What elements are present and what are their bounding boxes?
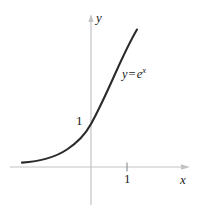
plot-canvas bbox=[0, 0, 204, 214]
y-axis-label: y bbox=[96, 11, 102, 24]
y-axis-arrowhead bbox=[88, 14, 93, 22]
exponential-function-figure: y x 1 1 y=ex bbox=[0, 0, 204, 214]
exponential-curve bbox=[22, 30, 137, 163]
x-axis-label: x bbox=[180, 173, 186, 186]
curve-equation-label: y=ex bbox=[122, 68, 146, 81]
x-tick-label-1: 1 bbox=[124, 172, 131, 185]
x-axis-arrowhead bbox=[181, 164, 190, 170]
curve-label-equals: = bbox=[128, 67, 137, 81]
curve-label-y: y bbox=[122, 67, 128, 81]
y-tick-label-1: 1 bbox=[76, 114, 83, 127]
curve-label-exponent: x bbox=[142, 65, 146, 75]
